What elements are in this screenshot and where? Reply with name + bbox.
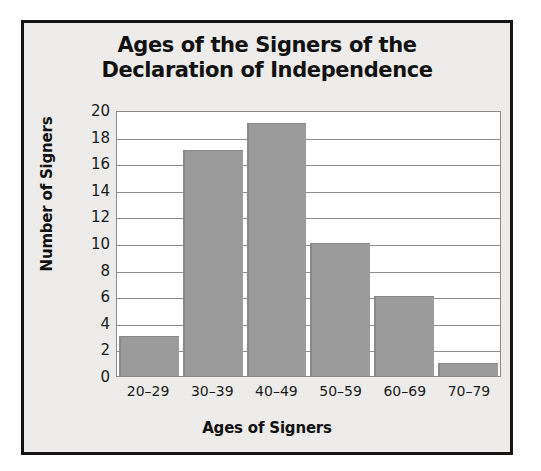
y-tick-label: 8 [78,262,110,280]
bar[interactable] [247,123,307,376]
y-tick-label: 2 [78,341,110,359]
bar[interactable] [374,296,434,376]
bar[interactable] [183,150,243,376]
y-tick-label: 16 [78,155,110,173]
y-axis-title: Number of Signers [38,99,56,289]
plot-area [116,111,501,377]
bar-slot [181,112,245,376]
bar-slot [372,112,436,376]
y-tick-label: 6 [78,288,110,306]
bar[interactable] [119,336,179,376]
bar[interactable] [438,363,498,376]
x-axis-tick-labels: 20–2930–3940–4950–5960–6970–79 [116,383,501,399]
bar-series [117,112,500,376]
chart-title-line-2: Declaration of Independence [24,58,510,83]
x-tick-label: 70–79 [437,383,501,399]
y-tick-label: 10 [78,235,110,253]
y-tick-label: 20 [78,102,110,120]
bar-slot [308,112,372,376]
chart-title-line-1: Ages of the Signers of the [24,33,510,58]
bar-slot [245,112,309,376]
x-tick-label: 30–39 [180,383,244,399]
x-tick-label: 50–59 [309,383,373,399]
y-tick-label: 14 [78,182,110,200]
bar-slot [117,112,181,376]
chart-figure: Ages of the Signers of the Declaration o… [21,20,513,455]
y-tick-label: 0 [78,368,110,386]
chart-title: Ages of the Signers of the Declaration o… [24,33,510,83]
x-tick-label: 40–49 [244,383,308,399]
y-tick-label: 4 [78,315,110,333]
y-tick-label: 18 [78,129,110,147]
x-axis-title: Ages of Signers [24,419,510,437]
y-axis-tick-labels: 02468101214161820 [68,111,110,377]
x-tick-label: 20–29 [116,383,180,399]
bar-slot [436,112,500,376]
y-tick-label: 12 [78,208,110,226]
bar[interactable] [310,243,370,376]
x-tick-label: 60–69 [373,383,437,399]
